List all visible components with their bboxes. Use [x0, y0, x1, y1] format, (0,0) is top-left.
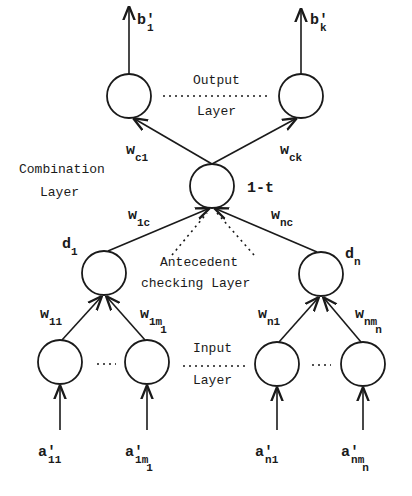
output-label-1: b′1 — [137, 12, 155, 34]
weight-label-w-11: w11 — [40, 306, 63, 328]
input-layer-label-line1: Input — [193, 341, 232, 356]
input-node-n1 — [255, 342, 299, 386]
antecedent-node-n — [299, 252, 343, 296]
input-label-a11: a′11 — [38, 444, 62, 466]
input-label-an1: a′n1 — [255, 444, 279, 466]
combination-node-label: 1-t — [247, 180, 274, 197]
output-node-k — [279, 74, 323, 118]
combination-layer-label-line2: Layer — [40, 185, 79, 200]
antecedent-layer-label-line1: Antecedent — [160, 255, 238, 270]
output-layer-label-line1: Output — [193, 73, 240, 88]
antecedent-label-d1: d1 — [62, 236, 78, 258]
edge-w-11 — [62, 296, 102, 340]
neural-network-diagram: b′1 b′k Output Layer Combination Layer A… — [0, 0, 412, 496]
input-label-a1m1: a′1m1 — [125, 444, 153, 474]
output-label-k: b′k — [310, 12, 328, 34]
combination-layer-label-line1: Combination — [19, 162, 105, 177]
weight-label-w-nc: wnc — [271, 207, 293, 229]
input-label-anmn: a′nmn — [341, 444, 369, 474]
input-node-nmn — [341, 342, 385, 386]
weight-label-w-1m1: w1m1 — [140, 306, 167, 336]
antecedent-node-1 — [82, 251, 126, 295]
output-node-1 — [107, 74, 151, 118]
weight-label-w-n1: wn1 — [258, 306, 281, 328]
input-node-1m1 — [125, 340, 169, 384]
input-layer-label-line2: Layer — [193, 373, 232, 388]
weight-label-w-ck: wck — [280, 142, 303, 164]
edge-w-nc — [214, 208, 317, 252]
combination-node — [190, 164, 234, 208]
dotted-pointer-left — [172, 213, 207, 255]
weight-label-w-c1: wc1 — [126, 142, 149, 164]
input-node-11 — [38, 340, 82, 384]
output-layer-label-line2: Layer — [197, 104, 236, 119]
weight-label-w-nmn: wnmn — [355, 306, 382, 336]
edge-w-n1 — [279, 297, 319, 342]
antecedent-label-dn: dn — [345, 246, 361, 268]
dotted-pointer-right — [217, 213, 254, 255]
edge-w-1c — [108, 208, 210, 251]
antecedent-layer-label-line2: checking Layer — [141, 276, 250, 291]
weight-label-w-1c: w1c — [128, 207, 150, 229]
